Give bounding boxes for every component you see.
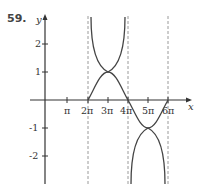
y-tick-2: 2 (35, 38, 41, 49)
x-tick-pi: π (64, 105, 70, 116)
axes (30, 19, 188, 184)
y-tick-neg2: -2 (29, 150, 38, 161)
x-tick-3pi: 3π (101, 105, 113, 116)
x-tick-4pi: 4π (120, 105, 132, 116)
y-axis-arrow-icon (43, 14, 48, 20)
y-tick-1: 1 (35, 66, 41, 77)
y-axis-label: y (35, 14, 42, 25)
y-tick-neg1: -1 (29, 122, 38, 133)
x-axis-label: x (188, 101, 194, 112)
cosecant-lower-branch (131, 128, 165, 184)
x-tick-5pi: 5π (142, 105, 154, 116)
cosecant-upper-branch (91, 17, 125, 72)
graph: π 2π 3π 4π 5π 6π 2 1 -1 -2 x y (0, 0, 208, 194)
x-tick-2pi: 2π (81, 105, 93, 116)
